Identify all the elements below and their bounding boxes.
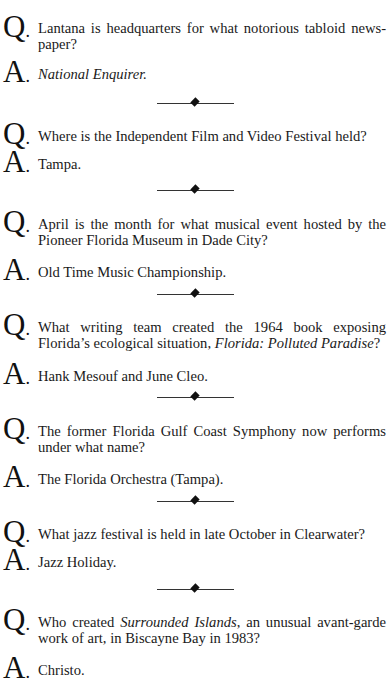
answer-text: Tampa. [38, 156, 386, 172]
section-separator [157, 584, 234, 594]
answer-letter: A. [3, 58, 30, 90]
answer-letter: A. [3, 360, 30, 392]
answer-letter: A. [3, 256, 30, 288]
answer-text: Hank Mesouf and June Cleo. [38, 368, 386, 384]
answer-text: Old Time Music Championship. [38, 264, 386, 280]
question-text: What jazz festival is held in late Octob… [38, 526, 386, 542]
answer-text: Jazz Holiday. [38, 554, 386, 570]
question-letter: Q. [3, 311, 30, 343]
section-separator [157, 496, 234, 506]
answer-text: Christo. [38, 662, 386, 678]
diamond-rule-icon [190, 391, 199, 400]
page-header: ARTS & LITERATURE [0, 0, 390, 3]
diamond-rule-icon [190, 495, 199, 504]
answer-letter: A. [3, 148, 30, 180]
diamond-rule-icon [190, 288, 199, 297]
question-letter: Q. [3, 13, 30, 45]
question-text: Where is the Independent Film and Video … [38, 128, 386, 144]
question-text: The former Florida Gulf Coast Symphony n… [38, 423, 386, 455]
question-letter: Q. [3, 208, 30, 240]
section-separator [157, 392, 234, 402]
section-separator [157, 98, 234, 108]
section-separator [157, 289, 234, 299]
answer-letter: A. [3, 463, 30, 495]
answer-letter: A. [3, 546, 30, 578]
answer-text: National Enquirer. [38, 66, 386, 82]
question-text: Who created Surrounded Islands, an unusu… [38, 614, 386, 646]
question-letter: Q. [3, 415, 30, 447]
question-text: April is the month for what musical even… [38, 216, 386, 248]
question-text: Lantana is headquarters for what notorio… [38, 20, 386, 52]
answer-text: The Florida Orchestra (Tampa). [38, 471, 386, 487]
diamond-rule-icon [190, 583, 199, 592]
question-text: What writing team created the 1964 book … [38, 319, 386, 351]
diamond-rule-icon [190, 97, 199, 106]
section-separator [157, 185, 234, 195]
answer-letter: A. [3, 654, 30, 682]
diamond-rule-icon [190, 184, 199, 193]
question-letter: Q. [3, 606, 30, 638]
